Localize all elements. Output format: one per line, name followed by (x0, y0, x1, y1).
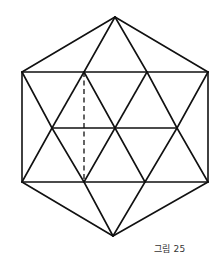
edge-F-I (22, 128, 52, 182)
edge-H-L (177, 128, 208, 182)
figure-caption: 그림 25 (154, 242, 185, 255)
edge-A-B (22, 17, 115, 72)
edge-K-M (113, 182, 145, 236)
edge-A-E (115, 17, 208, 72)
edge-B-F (22, 72, 52, 128)
edge-L-M (113, 182, 208, 236)
edge-G-K (115, 128, 145, 182)
edge-G-J (84, 128, 115, 182)
edge-F-J (52, 128, 84, 182)
edge-C-G (84, 72, 115, 128)
edge-group (22, 17, 208, 236)
edge-H-K (145, 128, 177, 182)
edge-D-H (147, 72, 177, 128)
edge-D-G (115, 72, 147, 128)
edge-E-H (177, 72, 208, 128)
edge-C-F (52, 72, 84, 128)
edge-A-D (115, 17, 147, 72)
icosahedron-diagram (0, 0, 223, 274)
